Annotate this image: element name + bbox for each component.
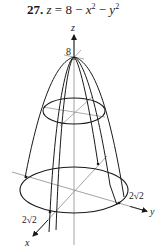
paraboloid-figure: z 8 y x xyxy=(0,0,160,248)
z-axis-label: z xyxy=(70,22,75,33)
y-axis-label: y xyxy=(149,206,155,217)
x-axis-label: x xyxy=(24,237,30,248)
intersection-points xyxy=(25,163,121,214)
radius-label-y: 2√2 xyxy=(129,191,144,201)
x-axis: x xyxy=(24,156,107,248)
surface-meridians xyxy=(25,57,124,232)
radius-label-x: 2√2 xyxy=(22,215,37,225)
apex-value-label: 8 xyxy=(66,46,71,57)
